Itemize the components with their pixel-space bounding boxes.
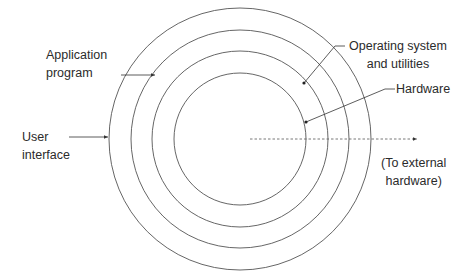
operating-system-leader xyxy=(304,46,345,83)
label-external-hardware-line1: (To external xyxy=(381,154,446,172)
hardware-dot xyxy=(304,120,307,123)
label-application-program-line1: Application xyxy=(46,46,107,64)
label-operating-system-line2: and utilities xyxy=(349,55,447,73)
label-hardware: Hardware xyxy=(396,80,450,98)
label-application-program-line2: program xyxy=(46,64,107,82)
label-external-hardware-line2: hardware) xyxy=(381,172,446,190)
label-user-interface-line2: interface xyxy=(22,146,70,164)
operating-system-dot xyxy=(302,81,305,84)
label-application-program: Application program xyxy=(46,46,107,82)
label-user-interface: User interface xyxy=(22,128,70,164)
label-hardware-line1: Hardware xyxy=(396,80,450,98)
label-operating-system: Operating system and utilities xyxy=(349,37,447,73)
ring-application-program xyxy=(131,30,349,248)
hardware-leader xyxy=(306,89,395,122)
label-external-hardware: (To external hardware) xyxy=(381,154,446,190)
label-user-interface-line1: User xyxy=(22,128,70,146)
label-operating-system-line1: Operating system xyxy=(349,37,447,55)
